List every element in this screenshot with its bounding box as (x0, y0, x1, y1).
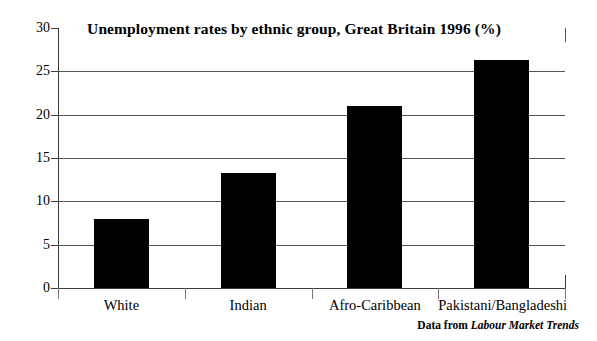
grid-right-cap-top (565, 28, 566, 42)
y-axis-tick-label: 5 (10, 238, 50, 252)
y-tick-30 (51, 28, 58, 29)
x-axis-tick-label: Pakistani/Bangladeshi (438, 297, 565, 314)
y-axis-tick-label: 25 (10, 64, 50, 78)
y-tick-0 (51, 288, 58, 289)
y-tick-15 (51, 158, 58, 159)
grid-right-cap-bottom (565, 275, 566, 289)
bar-white (94, 219, 149, 288)
x-axis-tick-label: Indian (185, 297, 312, 314)
y-tick-5 (51, 245, 58, 246)
x-axis-tick-label: White (58, 297, 185, 314)
y-tick-25 (51, 71, 58, 72)
y-tick-20 (51, 115, 58, 116)
plot-area (58, 28, 565, 288)
bar-pakistani-bangladeshi (474, 60, 529, 288)
chart-figure: Unemployment rates by ethnic group, Grea… (0, 0, 597, 341)
y-axis-tick-label: 10 (10, 194, 50, 208)
source-title: Labour Market Trends (471, 319, 579, 331)
y-axis-tick-label: 30 (10, 21, 50, 35)
y-axis-tick-label: 15 (10, 151, 50, 165)
x-axis-tick-label: Afro-Caribbean (312, 297, 439, 314)
y-axis-tick-label: 20 (10, 108, 50, 122)
y-axis-tick-label: 0 (10, 281, 50, 295)
source-prefix: Data from (417, 319, 468, 331)
bar-afro-caribbean (347, 106, 402, 288)
source-note: Data from Labour Market Trends (417, 319, 579, 331)
bar-indian (221, 173, 276, 288)
y-axis-labels: 051015202530 (8, 28, 50, 288)
y-tick-10 (51, 201, 58, 202)
